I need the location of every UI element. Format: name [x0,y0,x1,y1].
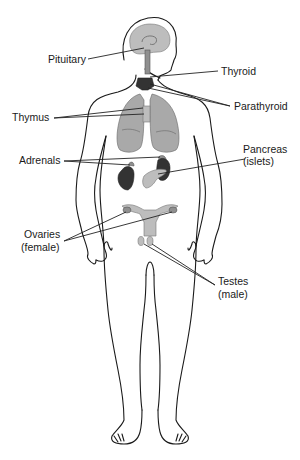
parathyroid-label: Parathyroid [234,100,288,112]
pancreas-label-line2: (islets) [243,155,274,167]
pancreas-leader [158,159,245,174]
thymus-gland [143,106,150,122]
testes-leader-1 [144,244,215,285]
thyroid-leader [150,71,218,77]
left-kidney-adrenal [118,162,134,190]
right-torso-outline [158,136,200,444]
pancreas-label-line1: Pancreas [243,143,287,155]
ovaries-label-line1: Ovaries [24,228,60,240]
adrenals-leader-1 [64,161,130,165]
lungs [117,94,179,152]
thyroid-label: Thyroid [221,65,256,77]
adrenals-label: Adrenals [19,154,60,166]
pituitary-label: Pituitary [48,53,86,65]
ovaries-label-line2: (female) [21,241,60,253]
testes-label-line2: (male) [218,288,248,300]
testes-label-line1: Testes [218,275,248,287]
testes [138,237,153,246]
thymus-label: Thymus [12,111,49,123]
uterus-ovaries [122,205,178,236]
adrenals-leader-2 [64,157,160,161]
pituitary-gland [145,50,150,74]
